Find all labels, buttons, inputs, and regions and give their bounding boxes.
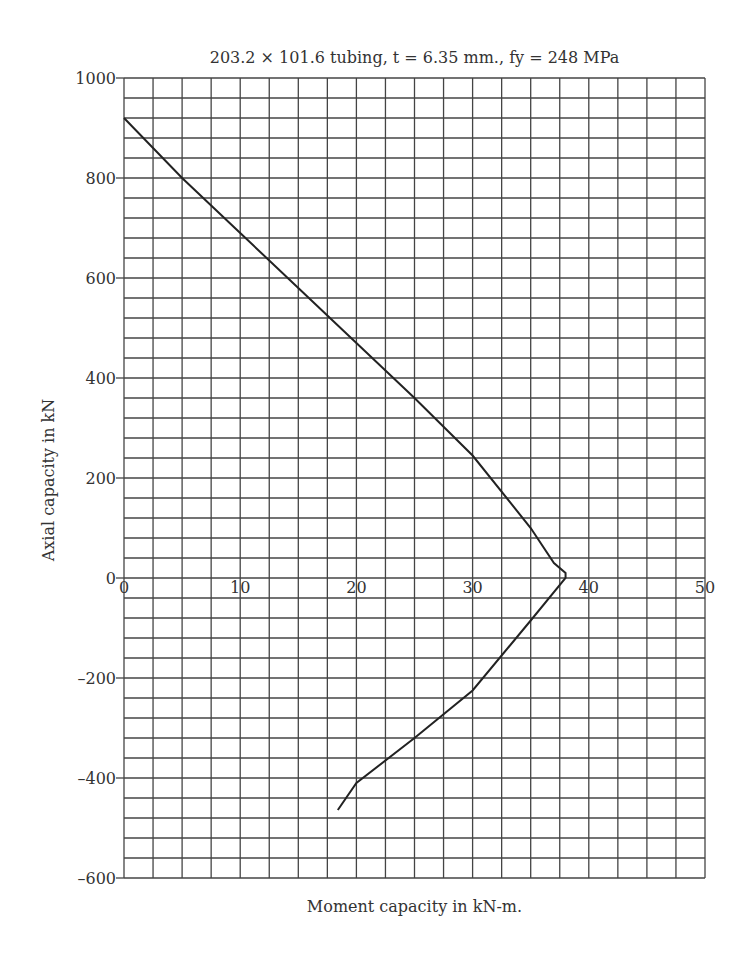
y-tick-label: 600 xyxy=(85,269,116,288)
y-tick-label: –200 xyxy=(77,669,116,688)
y-tick-label: 0 xyxy=(106,569,116,588)
x-tick-label: 10 xyxy=(230,578,250,597)
y-tick-label: 200 xyxy=(85,469,116,488)
chart-title: 203.2 × 101.6 tubing, t = 6.35 mm., fy =… xyxy=(124,48,705,67)
x-axis-label: Moment capacity in kN-m. xyxy=(124,897,705,916)
x-tick-label: 20 xyxy=(346,578,366,597)
x-tick-label: 0 xyxy=(119,578,129,597)
y-tick-label: –600 xyxy=(77,869,116,888)
y-tick-label: 400 xyxy=(85,369,116,388)
y-axis-label: Axial capacity in kN xyxy=(39,399,58,562)
x-tick-label: 50 xyxy=(695,578,715,597)
y-tick-label: –400 xyxy=(77,769,116,788)
y-tick-label: 1000 xyxy=(75,69,116,88)
x-tick-label: 40 xyxy=(579,578,599,597)
y-tick-label: 800 xyxy=(85,169,116,188)
x-tick-label: 30 xyxy=(462,578,482,597)
interaction-curve xyxy=(124,118,566,810)
